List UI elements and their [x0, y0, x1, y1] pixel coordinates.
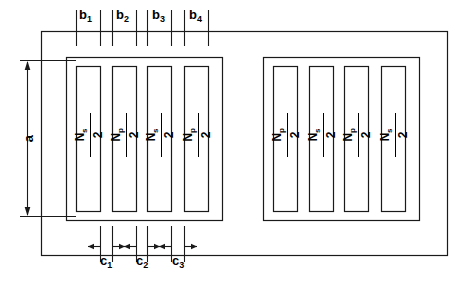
arrowhead-c2-left — [124, 244, 130, 250]
dimension-label-b4-symbol: b — [189, 7, 197, 22]
arrowhead-a-top — [25, 61, 31, 70]
dimension-label-b1: b1 — [79, 8, 92, 24]
winding-label-left-1-denominator: 2 — [92, 112, 104, 158]
winding-label-left-3: Ns 2 — [145, 112, 175, 158]
winding-label-left-2: Np 2 — [110, 112, 140, 158]
arrowhead-c3-left — [159, 244, 165, 250]
winding-label-right-2-denominator: 2 — [325, 112, 337, 158]
winding-label-left-2-numerator: Np — [110, 112, 125, 158]
winding-label-left-1: Ns 2 — [74, 112, 104, 158]
dimension-label-b2: b2 — [116, 8, 129, 24]
winding-label-right-1-numerator: Np — [271, 112, 286, 158]
winding-label-right-2: Ns 2 — [307, 112, 337, 158]
winding-label-left-4: Np 2 — [182, 112, 212, 158]
arrowhead-c1-left — [88, 244, 94, 250]
dimension-label-c3-subscript: 3 — [179, 260, 184, 270]
winding-label-right-4-numerator: Ns — [379, 112, 394, 158]
dimension-label-c2: c2 — [136, 254, 148, 270]
dimension-label-c1: c1 — [100, 254, 112, 270]
winding-label-left-3-denominator: 2 — [163, 112, 175, 158]
winding-label-left-4-denominator: 2 — [200, 112, 212, 158]
dimension-label-b4: b4 — [189, 8, 202, 24]
dimension-label-c3: c3 — [172, 254, 184, 270]
arrowhead-a-bottom — [25, 207, 31, 216]
winding-label-right-2-numerator: Ns — [307, 112, 322, 158]
dimension-label-b4-subscript: 4 — [197, 14, 202, 24]
dimension-label-c1-subscript: 1 — [107, 260, 112, 270]
winding-label-right-1-denominator: 2 — [289, 112, 301, 158]
dimension-label-b3-symbol: b — [152, 7, 160, 22]
winding-label-right-3: Np 2 — [342, 112, 372, 158]
winding-label-left-1-numerator: Ns — [74, 112, 89, 158]
winding-label-right-4: Ns 2 — [379, 112, 409, 158]
diagram-canvas: b1 b2 b3 b4 c1 c2 c3 a Ns 2 Np 2 Ns 2 Np… — [0, 0, 462, 284]
winding-label-right-1: Np 2 — [271, 112, 301, 158]
dimension-label-b2-symbol: b — [116, 7, 124, 22]
winding-label-left-3-numerator: Ns — [145, 112, 160, 158]
dimension-label-b3-subscript: 3 — [160, 14, 165, 24]
dimension-label-b1-subscript: 1 — [87, 14, 92, 24]
winding-label-right-3-denominator: 2 — [360, 112, 372, 158]
winding-label-right-3-numerator: Np — [342, 112, 357, 158]
arrowhead-c3-right — [191, 244, 197, 250]
winding-label-right-4-denominator: 2 — [397, 112, 409, 158]
dimension-label-a: a — [21, 127, 36, 151]
winding-label-left-4-numerator: Np — [182, 112, 197, 158]
dimension-label-c2-subscript: 2 — [143, 260, 148, 270]
dimension-label-b1-symbol: b — [79, 7, 87, 22]
winding-label-left-2-denominator: 2 — [128, 112, 140, 158]
dimension-label-b2-subscript: 2 — [124, 14, 129, 24]
dimension-label-b3: b3 — [152, 8, 165, 24]
